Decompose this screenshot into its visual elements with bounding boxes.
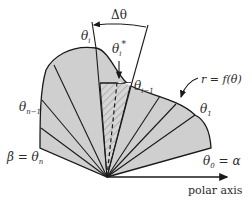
label-polar-axis: polar axis xyxy=(188,184,243,197)
label-delta-theta: Δθ xyxy=(111,8,127,22)
label-theta-i-star: θi* xyxy=(112,39,126,58)
curve-pointer-arrow xyxy=(181,78,198,97)
label-theta-0-alpha: θ0 = α xyxy=(203,154,241,170)
delta-theta-arrow xyxy=(94,24,146,27)
polar-area-diagram: Δθ θi θi* θi−1 r = f(θ) θ1 θn−1 β = θn θ… xyxy=(0,0,252,204)
label-beta-theta-n: β = θn xyxy=(6,150,44,166)
label-curve-equation: r = f(θ) xyxy=(201,73,242,86)
theta-i-minus-1-extension xyxy=(131,25,148,86)
theta-i-extension xyxy=(92,22,96,48)
label-theta-n-minus-1: θn−1 xyxy=(19,100,41,116)
label-theta-i: θi xyxy=(81,29,90,45)
label-theta-1: θ1 xyxy=(200,102,212,118)
label-theta-i-minus-1: θi−1 xyxy=(134,79,154,95)
